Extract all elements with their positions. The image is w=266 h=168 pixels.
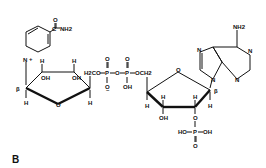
amide-nh2-label: NH2 [60,26,73,32]
o-label: O [125,56,130,62]
p-label: P [193,129,197,135]
p1-label: P [105,70,109,76]
n-label: N [211,77,215,83]
n-label: N [235,77,239,83]
oh-label: OH [72,75,81,81]
amide-c-label: C [52,26,57,32]
h-label: H [72,58,76,64]
oh-label: OH [203,129,212,135]
oh-label: OH [41,75,50,81]
h-label: H [40,58,44,64]
o-label: O [193,143,198,149]
ring-n-label: N [23,57,27,63]
oh-label: OH [123,84,132,90]
h-label: H [193,94,197,100]
nh2-label: NH2 [233,24,246,30]
positive-charge-label: + [29,56,33,62]
o-label: O [105,56,110,62]
ribose-1: H H OH OH O β H H [16,58,92,108]
o-label: O [193,115,198,121]
beta-label: β [16,86,20,92]
ho-label: HO [178,129,187,135]
phosphate-group: HO P OH O [178,129,212,149]
chemical-structure-diagram: O C NH2 N + H H OH OH O β H H H2CO P O O [0,0,266,168]
och2-label: OCH2 [135,70,152,76]
bridge-o-label: O [115,70,120,76]
adenine: NH2 N N N N [197,24,252,83]
ring-o-label: O [176,67,181,73]
h-label: H [24,100,28,106]
nadp-structure-figure: O C NH2 N + H H OH OH O β H H H2CO P O O [0,0,266,168]
p2-label: P [125,70,129,76]
n-label: N [248,48,252,54]
n-label: N [197,47,201,53]
ribose-2: O β H H H H OH O [145,67,218,127]
carbonyl-o-label: O [53,17,58,23]
pyrophosphate: H2CO P O O – O P O OH OCH2 [84,56,152,93]
h-label: H [145,103,149,109]
h-label: H [88,100,92,106]
h-label: H [161,94,165,100]
h-label: H [208,103,212,109]
beta-label: β [214,88,218,94]
h2co-label: H2CO [84,70,101,76]
oh-label: OH [159,115,168,121]
ring-o-label: O [56,102,61,108]
panel-label: B [12,154,19,165]
